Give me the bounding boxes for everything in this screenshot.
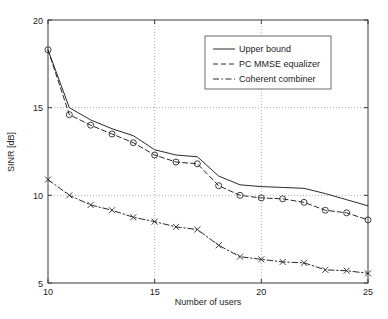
chart-legend: Upper boundPC MMSE equalizerCoherent com… [205,36,331,89]
y-tick-label: 10 [33,191,43,201]
y-tick-label: 5 [38,279,43,289]
series-line-3 [48,180,368,274]
x-tick-label: 20 [256,287,266,297]
data-point-marker [109,207,115,213]
chart-figure: 101520255101520 Number of users SINR [dB… [0,0,388,319]
x-tick-label: 15 [150,287,160,297]
data-point-marker [322,267,328,273]
x-tick-label: 25 [363,287,373,297]
x-tick-label: 10 [43,287,53,297]
sinr-vs-users-chart: 101520255101520 Number of users SINR [dB… [0,0,388,319]
legend-label-2: PC MMSE equalizer [239,59,320,69]
series-3 [45,177,371,277]
y-tick-label: 15 [33,103,43,113]
x-axis-title: Number of users [175,297,242,307]
y-axis-title: SINR [dB] [6,132,16,172]
data-point-marker [216,242,222,248]
data-point-marker [66,192,72,198]
y-tick-label: 20 [33,16,43,26]
legend-label-3: Coherent combiner [239,74,316,84]
data-point-marker [194,227,200,233]
data-point-marker [88,202,94,208]
legend-label-1: Upper bound [239,44,291,54]
